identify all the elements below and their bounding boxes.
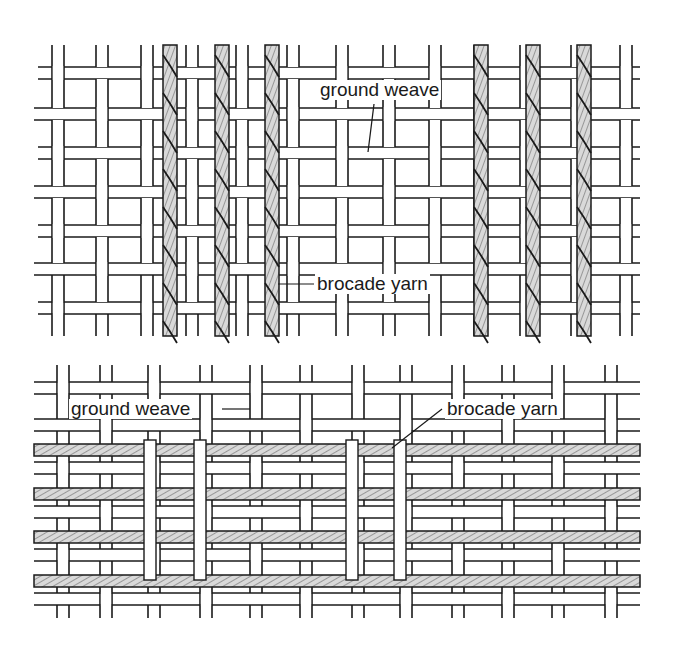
- top-ground-weave-label: ground weave: [318, 80, 441, 100]
- bottom-brocade-diagram: ground weave brocade yarn: [0, 345, 676, 654]
- bottom-ground-weave-label: ground weave: [69, 399, 192, 419]
- bottom-brocade-yarn-label: brocade yarn: [445, 399, 560, 419]
- bottom-weave-illustration: [0, 345, 676, 654]
- top-brocade-yarn-label: brocade yarn: [315, 274, 430, 294]
- top-brocade-diagram: ground weave brocade yarn: [0, 0, 676, 345]
